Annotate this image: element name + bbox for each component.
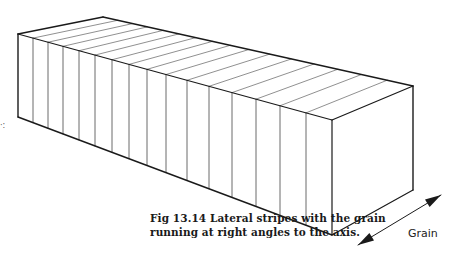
figure-caption: Fig 13.14 Lateral stripes with the grain… bbox=[150, 211, 386, 239]
caption-line-1: Fig 13.14 Lateral stripes with the grain bbox=[150, 211, 386, 225]
caption-line-2: running at right angles to the axis. bbox=[150, 225, 386, 239]
grain-label: Grain bbox=[408, 227, 438, 240]
edge-mark: ·: bbox=[0, 121, 5, 130]
lateral-stripes bbox=[33, 20, 387, 225]
